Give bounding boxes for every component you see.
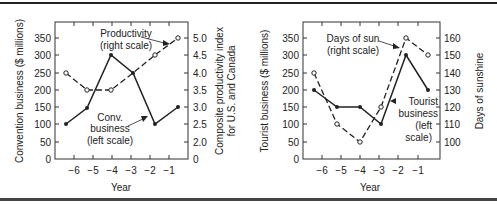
svg-text:−1: −1	[163, 165, 175, 176]
left-chart: 0 50 100 150 200 250 300 350 0 2.0 2.5 3…	[14, 19, 237, 193]
svg-text:0: 0	[293, 154, 299, 165]
svg-text:(left: (left	[415, 120, 432, 131]
svg-text:(left scale): (left scale)	[87, 135, 133, 146]
conv-arrowhead	[141, 116, 148, 122]
svg-text:−4: −4	[106, 165, 118, 176]
svg-text:−3: −3	[373, 165, 385, 176]
svg-text:(right scale): (right scale)	[100, 40, 152, 51]
right-yaxis-label: Tourist business ($ millions)	[259, 30, 270, 153]
svg-text:350: 350	[282, 33, 299, 44]
left-yaxis-ticks: 0 50 100 150 200 250 300 350	[34, 33, 51, 165]
left-xaxis-ticks: −6 −5 −4 −3 −2 −1	[68, 165, 175, 176]
svg-text:100: 100	[444, 137, 461, 148]
svg-text:150: 150	[34, 102, 51, 113]
svg-text:4.0: 4.0	[193, 68, 207, 79]
svg-text:300: 300	[34, 50, 51, 61]
tourist-arrowhead	[390, 98, 396, 104]
svg-text:−5: −5	[335, 165, 347, 176]
svg-text:−1: −1	[412, 165, 424, 176]
svg-text:250: 250	[34, 68, 51, 79]
days-of-sun-arrowhead	[393, 43, 400, 49]
svg-text:250: 250	[282, 68, 299, 79]
svg-text:350: 350	[34, 33, 51, 44]
left-y2axis-label-line2: for U.S. and Canada	[226, 45, 237, 137]
svg-text:300: 300	[282, 50, 299, 61]
svg-text:3.5: 3.5	[193, 85, 207, 96]
svg-text:50: 50	[40, 137, 52, 148]
svg-text:120: 120	[444, 102, 461, 113]
right-y2axis-label: Days of sunshine	[474, 52, 485, 129]
svg-text:−3: −3	[125, 165, 137, 176]
right-chart: 0 50 100 150 200 250 300 350 100 110 120…	[259, 22, 485, 193]
svg-text:0: 0	[45, 154, 51, 165]
productivity-arrowhead	[163, 40, 170, 46]
svg-text:0: 0	[193, 154, 199, 165]
svg-text:Productivity: Productivity	[100, 28, 152, 39]
svg-text:(right scale): (right scale)	[327, 45, 379, 56]
svg-text:scale): scale)	[405, 132, 432, 143]
svg-text:−2: −2	[144, 165, 156, 176]
svg-text:−5: −5	[87, 165, 99, 176]
left-yaxis-label: Convention business ($ millions)	[14, 19, 25, 163]
svg-text:−6: −6	[68, 165, 80, 176]
svg-text:200: 200	[34, 85, 51, 96]
svg-text:140: 140	[444, 68, 461, 79]
left-xaxis-label: Year	[111, 182, 132, 193]
right-xaxis-label: Year	[360, 182, 381, 193]
charts-canvas: 0 50 100 150 200 250 300 350 0 2.0 2.5 3…	[0, 0, 497, 204]
right-xaxis-ticks: −6 −5 −4 −3 −2 −1	[316, 165, 424, 176]
svg-text:2.0: 2.0	[193, 137, 207, 148]
svg-text:business: business	[399, 108, 438, 119]
svg-text:110: 110	[444, 119, 460, 130]
svg-text:130: 130	[444, 85, 461, 96]
svg-text:3.0: 3.0	[193, 102, 207, 113]
svg-text:4.5: 4.5	[193, 50, 207, 61]
svg-text:Tourist: Tourist	[409, 96, 439, 107]
svg-text:2.5: 2.5	[193, 119, 207, 130]
right-y2axis-ticks: 100 110 120 130 140 150 160	[444, 33, 461, 148]
svg-text:business: business	[90, 123, 129, 134]
right-yaxis-ticks: 0 50 100 150 200 250 300 350	[282, 33, 299, 165]
svg-text:100: 100	[34, 119, 51, 130]
svg-text:150: 150	[282, 102, 299, 113]
svg-text:100: 100	[282, 119, 299, 130]
svg-text:−2: −2	[392, 165, 404, 176]
svg-text:5.0: 5.0	[193, 33, 207, 44]
left-y2axis-ticks: 0 2.0 2.5 3.0 3.5 4.0 4.5 5.0	[193, 33, 207, 165]
svg-text:−4: −4	[354, 165, 366, 176]
left-y2axis-label-line1: Composite productivity index	[214, 27, 225, 155]
svg-text:Days of sun: Days of sun	[327, 33, 380, 44]
svg-text:−6: −6	[316, 165, 328, 176]
svg-text:50: 50	[288, 137, 300, 148]
svg-text:Conv.: Conv.	[97, 112, 122, 123]
svg-text:150: 150	[444, 50, 461, 61]
svg-text:160: 160	[444, 33, 461, 44]
svg-text:200: 200	[282, 85, 299, 96]
